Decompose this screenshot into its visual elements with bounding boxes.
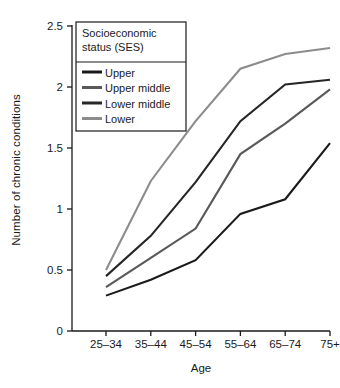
x-axis-tick-label: 65–74	[269, 338, 302, 350]
y-axis-tick-label: 2	[57, 81, 63, 93]
legend: Socioeconomicstatus (SES)UpperUpper midd…	[76, 22, 186, 131]
y-axis-title-text: Number of chronic conditions	[10, 94, 22, 246]
x-axis-title: Age	[72, 362, 330, 374]
y-axis: 00.511.522.5	[47, 20, 72, 337]
y-axis-tick-label: 2.5	[47, 20, 63, 32]
legend-entry-label: Lower	[105, 113, 135, 125]
x-axis-tick-label: 75+	[320, 338, 340, 350]
x-axis: 25–3435–4445–5455–6465–7475+	[72, 331, 340, 350]
line-chart-plot: 00.511.522.5 25–3435–4445–5455–6465–7475…	[0, 0, 340, 360]
x-axis-tick-label: 35–44	[135, 338, 168, 350]
chart-figure: Number of chronic conditions 00.511.522.…	[0, 0, 340, 388]
x-axis-tick-label: 55–64	[224, 338, 257, 350]
series-line	[106, 143, 330, 296]
y-axis-title: Number of chronic conditions	[0, 0, 32, 340]
legend-entry-label: Lower middle	[105, 98, 170, 110]
y-axis-tick-label: 0	[57, 325, 63, 337]
legend-title-line: Socioeconomic	[82, 27, 157, 39]
y-axis-tick-label: 1.5	[47, 142, 63, 154]
legend-entry-label: Upper middle	[105, 82, 170, 94]
x-axis-tick-label: 25–34	[90, 338, 123, 350]
y-axis-tick-label: 0.5	[47, 264, 63, 276]
legend-title-line: status (SES)	[82, 41, 144, 53]
legend-entry-label: Upper	[105, 67, 135, 79]
y-axis-tick-label: 1	[57, 203, 63, 215]
x-axis-tick-label: 45–54	[180, 338, 213, 350]
